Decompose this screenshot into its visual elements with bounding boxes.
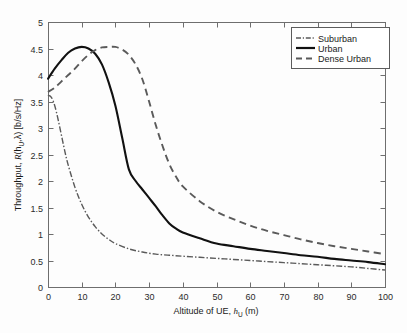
legend-label-dense-urban: Dense Urban bbox=[318, 54, 371, 64]
x-tick-label: 70 bbox=[279, 292, 289, 302]
x-axis-title: Altitude of UE, hU (m) bbox=[173, 306, 258, 318]
svg-text:Throughput, R(hU,λ) [b/s/Hz]: Throughput, R(hU,λ) [b/s/Hz] bbox=[13, 99, 25, 211]
x-axis-title-main: Altitude of UE, bbox=[173, 306, 233, 316]
x-tick-label: 10 bbox=[77, 292, 87, 302]
y-tick-label: 2.5 bbox=[30, 151, 43, 161]
y-tick-label: 3.5 bbox=[30, 98, 43, 108]
x-tick-label: 80 bbox=[313, 292, 323, 302]
y-tick-label: 1.5 bbox=[30, 204, 43, 214]
y-axis-title: Throughput, R(hU,λ) [b/s/Hz] bbox=[13, 99, 25, 211]
y-tick-label: 2 bbox=[38, 177, 43, 187]
x-tick-label: 40 bbox=[178, 292, 188, 302]
x-tick-label: 90 bbox=[346, 292, 356, 302]
y-tick-label: 0 bbox=[38, 283, 43, 293]
legend-label-urban: Urban bbox=[318, 44, 343, 54]
x-tick-label: 50 bbox=[212, 292, 222, 302]
y-tick-label: 4.5 bbox=[30, 45, 43, 55]
x-tick-label: 0 bbox=[46, 292, 51, 302]
x-tick-label: 20 bbox=[110, 292, 120, 302]
y-axis-title-open: (h bbox=[13, 147, 23, 155]
x-axis-title-unit: (m) bbox=[243, 306, 259, 316]
y-tick-label: 4 bbox=[38, 71, 43, 81]
x-tick-label: 100 bbox=[378, 292, 393, 302]
y-axis-title-pre: Throughput, bbox=[13, 160, 23, 211]
chart-legend[interactable]: Suburban Urban Dense Urban bbox=[292, 28, 390, 69]
y-tick-label: 5 bbox=[38, 18, 43, 28]
y-tick-label: 0.5 bbox=[30, 257, 43, 267]
figure-container: 00.511.522.533.544.55 010203040506070809… bbox=[0, 0, 407, 333]
legend-label-suburban: Suburban bbox=[318, 34, 357, 44]
y-axis-title-close: ,λ) [b/s/Hz] bbox=[13, 99, 23, 142]
throughput-vs-altitude-chart: 00.511.522.533.544.55 010203040506070809… bbox=[0, 0, 407, 333]
x-tick-label: 60 bbox=[245, 292, 255, 302]
y-tick-label: 3 bbox=[38, 124, 43, 134]
svg-text:Altitude of UE, hU (m): Altitude of UE, hU (m) bbox=[173, 306, 258, 318]
x-tick-label: 30 bbox=[144, 292, 154, 302]
y-tick-label: 1 bbox=[38, 230, 43, 240]
